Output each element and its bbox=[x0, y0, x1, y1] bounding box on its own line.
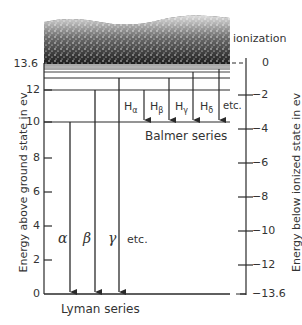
right-tick-minus12: −12 bbox=[252, 259, 275, 270]
left-tick-0: 0 bbox=[10, 288, 40, 299]
ionization-label: ionization bbox=[233, 33, 286, 44]
balmer-gamma-sub: γ bbox=[183, 106, 188, 115]
right-tick-minus10: −10 bbox=[252, 225, 275, 236]
lyman-beta-label: β bbox=[83, 231, 91, 245]
left-axis-title: Energy above ground state in ev bbox=[18, 88, 29, 278]
right-axis-title: Energy below ionized state in ev bbox=[291, 83, 302, 283]
lyman-etc-label: etc. bbox=[127, 234, 148, 245]
balmer-alpha-label: Hα bbox=[124, 101, 138, 115]
lyman-series-label: Lyman series bbox=[61, 303, 140, 315]
right-axis bbox=[238, 58, 253, 295]
balmer-beta-sub: β bbox=[158, 106, 163, 115]
balmer-beta-label: Hβ bbox=[150, 101, 163, 115]
ionization-continuum bbox=[44, 15, 230, 64]
lyman-alpha-label: α bbox=[58, 231, 67, 245]
lyman-arrows bbox=[70, 78, 119, 292]
lyman-gamma-label: γ bbox=[108, 231, 116, 245]
right-tick-minus8: −8 bbox=[252, 191, 268, 202]
left-tick-13.6: 13.6 bbox=[8, 58, 38, 69]
right-tick-minus6: −6 bbox=[252, 157, 268, 168]
right-tick-minus4: −4 bbox=[252, 123, 268, 134]
right-tick-0: 0 bbox=[262, 57, 269, 68]
balmer-alpha-sub: α bbox=[132, 106, 137, 115]
balmer-delta-sub: δ bbox=[208, 106, 213, 115]
balmer-series-label: Balmer series bbox=[145, 130, 227, 142]
right-tick-minus13.6: −13.6 bbox=[252, 288, 286, 299]
balmer-etc-label: etc. bbox=[223, 101, 242, 111]
balmer-delta-label: Hδ bbox=[200, 101, 213, 115]
balmer-gamma-label: Hγ bbox=[175, 101, 188, 115]
left-axis bbox=[44, 63, 52, 294]
right-tick-minus2: −2 bbox=[252, 89, 268, 100]
